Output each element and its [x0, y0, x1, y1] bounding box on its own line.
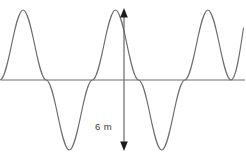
- measurement-label: 6 m: [95, 121, 112, 133]
- wave-diagram: 6 m: [0, 0, 246, 153]
- measurement-arrowhead-bottom: [120, 142, 128, 152]
- measurement-arrowhead-top: [120, 8, 128, 18]
- wave-diagram-svg: [0, 0, 246, 153]
